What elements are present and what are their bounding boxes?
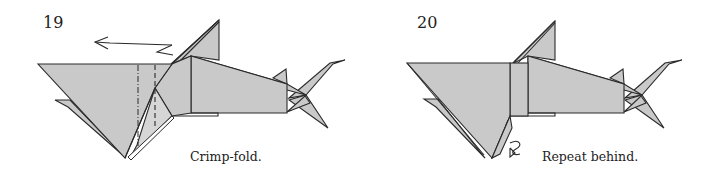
step-19-figure: 19	[0, 0, 360, 174]
neck-panel	[510, 63, 528, 116]
repeat-behind-arrow-icon	[510, 141, 520, 157]
body-panel	[528, 56, 624, 113]
tail-fin	[624, 60, 682, 128]
body-panel	[191, 56, 287, 113]
push-arrow-icon	[95, 37, 173, 55]
head-panel	[407, 63, 510, 158]
step-20-figure: 20	[360, 0, 717, 174]
shark-crimp-diagram	[0, 0, 360, 174]
step-caption: Crimp-fold.	[190, 149, 262, 164]
shark-repeat-diagram	[360, 0, 717, 174]
tail-fin	[287, 60, 345, 128]
step-caption: Repeat behind.	[542, 149, 638, 164]
